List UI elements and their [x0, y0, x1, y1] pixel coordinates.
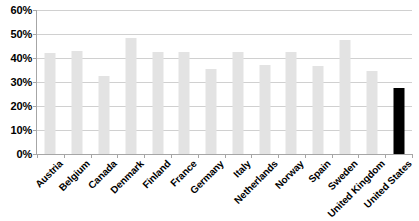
x-tick-label: United States: [361, 158, 413, 210]
bar-slot: [332, 10, 359, 154]
bar[interactable]: [98, 76, 109, 154]
bar-slot: [358, 10, 385, 154]
y-tick-label: 40%: [11, 52, 32, 64]
bar-slot: [278, 10, 305, 154]
bar[interactable]: [152, 52, 163, 154]
bar-slot: [117, 10, 144, 154]
y-axis: 60%50%40%30%20%10%0%: [0, 0, 34, 160]
bar[interactable]: [366, 71, 377, 154]
y-tick-label: 10%: [11, 124, 32, 136]
bar[interactable]: [206, 69, 217, 154]
y-tick-label: 20%: [11, 100, 32, 112]
plot-area: [36, 10, 412, 155]
x-tick-label: Finland: [140, 158, 172, 190]
bar[interactable]: [232, 52, 243, 154]
bar-slot: [225, 10, 252, 154]
bar[interactable]: [259, 65, 270, 154]
bar[interactable]: [313, 66, 324, 154]
bar-slot: [305, 10, 332, 154]
bar[interactable]: [393, 88, 404, 154]
bar-slot: [198, 10, 225, 154]
y-tick-label: 50%: [11, 28, 32, 40]
bar-chart: 60%50%40%30%20%10%0% AustriaBelgiumCanad…: [0, 0, 419, 221]
bar-slot: [64, 10, 91, 154]
y-tick-label: 30%: [11, 76, 32, 88]
x-tick-mark: [412, 154, 413, 158]
bar[interactable]: [340, 40, 351, 154]
bars-group: [37, 10, 412, 154]
bar-slot: [171, 10, 198, 154]
bar-slot: [251, 10, 278, 154]
bar-slot: [385, 10, 412, 154]
bar[interactable]: [286, 52, 297, 154]
y-tick-label: 60%: [11, 4, 32, 16]
bar[interactable]: [179, 52, 190, 154]
bar-slot: [144, 10, 171, 154]
bar[interactable]: [125, 38, 136, 154]
y-tick-label: 0%: [17, 148, 33, 160]
x-axis: AustriaBelgiumCanadaDenmarkFinlandFrance…: [36, 156, 411, 221]
bar-slot: [91, 10, 118, 154]
bar-slot: [37, 10, 64, 154]
bar[interactable]: [45, 53, 56, 154]
x-tick-label: Italy: [231, 158, 253, 180]
bar[interactable]: [72, 51, 83, 154]
